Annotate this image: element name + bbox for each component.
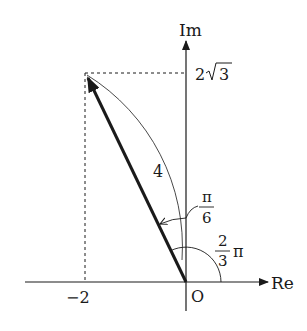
im-value-label: 2 3 [195,63,232,84]
angle-pi-over-6-leader [186,206,198,218]
angle-arg-label: 2 3 π [215,232,244,270]
fraction-numerator: 2 [218,232,228,250]
fraction-numerator: π [202,188,212,206]
fraction-suffix: π [233,242,244,261]
complex-plane-diagram: Im Re O −2 2 3 4 π 6 2 3 π [0,0,307,331]
real-axis-label: Re [271,273,294,293]
imaginary-axis-label: Im [179,20,202,40]
modulus-label: 4 [153,162,163,181]
angle-pi-over-6-arc [160,218,186,224]
fraction-denominator: 6 [202,209,212,227]
im-value-coefficient: 2 [195,65,205,84]
re-value-label: −2 [66,288,90,307]
origin-label: O [191,287,204,306]
fraction-denominator: 3 [218,252,228,270]
im-value-radicand: 3 [219,65,229,84]
angle-pi-over-6-label: π 6 [199,188,214,227]
